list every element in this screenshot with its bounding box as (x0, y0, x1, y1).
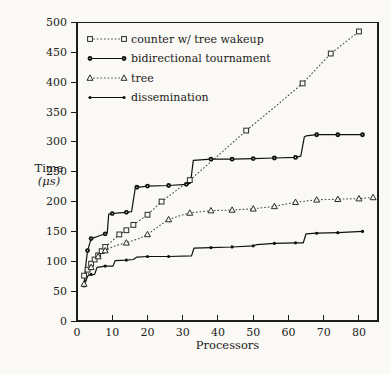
series-line-bidirectional-tournament (84, 135, 363, 286)
marker-open-triangle (187, 210, 193, 215)
marker-small-dot (167, 255, 170, 258)
legend-item-label: tree (131, 72, 154, 85)
legend-item-label: bidirectional tournament (131, 52, 271, 65)
marker-small-dot (336, 231, 339, 234)
series-markers-tree (81, 194, 376, 286)
marker-open-triangle (229, 207, 235, 212)
series-markers-bidirectional-tournament (82, 132, 365, 287)
marker-filled-circle-center (231, 159, 232, 160)
marker-open-square (124, 228, 129, 233)
marker-open-triangle (250, 206, 256, 211)
marker-small-dot (294, 241, 297, 244)
marker-filled-circle-center (274, 157, 275, 158)
plot-frame (77, 23, 378, 322)
marker-open-triangle (166, 216, 172, 221)
marker-filled-circle-center (147, 185, 148, 186)
legend-item-label: counter w/ tree wakeup (131, 33, 264, 46)
marker-open-triangle (208, 207, 214, 212)
x-tick-label: 70 (317, 326, 331, 339)
marker-filled-circle-center (126, 212, 127, 213)
legend-item-tree: tree (87, 72, 154, 85)
marker-filled-circle-center (210, 159, 211, 160)
marker-open-square (300, 81, 305, 86)
marker-open-triangle (121, 75, 127, 80)
marker-filled-circle-center (362, 134, 363, 135)
marker-open-square (131, 222, 136, 227)
marker-filled-circle-center (90, 238, 91, 239)
marker-filled-circle-center (316, 134, 317, 135)
marker-filled-circle-center (105, 233, 106, 234)
marker-small-dot (122, 96, 125, 99)
marker-open-square (88, 37, 93, 42)
marker-small-dot (315, 232, 318, 235)
series-markers-counter-w-tree-wakeup (82, 29, 362, 278)
y-tick-label: 400 (46, 76, 67, 89)
legend-item-counter-w-tree-wakeup: counter w/ tree wakeup (88, 33, 264, 46)
marker-open-square (117, 232, 122, 237)
series-markers-dissemination (89, 230, 364, 276)
legend-item-bidirectional-tournament: bidirectional tournament (88, 52, 272, 65)
marker-small-dot (104, 264, 107, 267)
marker-open-square (159, 199, 164, 204)
x-tick-label: 0 (74, 326, 81, 339)
marker-open-square (328, 51, 333, 56)
marker-open-triangle (87, 75, 93, 80)
y-tick-label: 500 (46, 16, 67, 29)
x-tick-label: 60 (281, 326, 295, 339)
marker-small-dot (230, 245, 233, 248)
marker-filled-circle-center (123, 58, 124, 59)
marker-small-dot (89, 273, 92, 276)
marker-open-square (145, 212, 150, 217)
y-axis-title-units: (μs) (38, 174, 60, 188)
y-tick-label: 350 (46, 106, 67, 119)
series-line-counter-w-tree-wakeup (84, 32, 359, 276)
legend-item-dissemination: dissemination (88, 91, 208, 104)
marker-filled-circle-center (89, 58, 90, 59)
marker-open-square (357, 29, 362, 34)
marker-open-triangle (370, 194, 376, 199)
y-tick-label: 0 (60, 315, 67, 328)
y-tick-label: 100 (46, 255, 67, 268)
marker-small-dot (125, 259, 128, 262)
y-tick-label: 50 (53, 285, 67, 298)
y-tick-label: 150 (46, 225, 67, 238)
marker-filled-circle-center (136, 187, 137, 188)
marker-small-dot (146, 255, 149, 258)
marker-open-square (122, 37, 127, 42)
marker-filled-circle-center (253, 158, 254, 159)
barrier-performance-figure: 0102030405060708005010015020025030035040… (0, 0, 391, 374)
x-tick-label: 80 (352, 326, 366, 339)
y-axis-title: Time (34, 161, 63, 175)
marker-filled-circle-center (87, 250, 88, 251)
chart-canvas: 0102030405060708005010015020025030035040… (0, 0, 391, 374)
legend-item-label: dissemination (131, 91, 209, 104)
x-tick-label: 10 (105, 326, 119, 339)
marker-filled-circle-center (337, 134, 338, 135)
marker-open-triangle (144, 231, 150, 236)
marker-open-square (82, 273, 87, 278)
marker-filled-circle-center (168, 185, 169, 186)
marker-small-dot (273, 242, 276, 245)
marker-open-square (244, 128, 249, 133)
marker-small-dot (209, 246, 212, 249)
marker-small-dot (361, 230, 364, 233)
legend: counter w/ tree wakeupbidirectional tour… (87, 33, 271, 105)
x-tick-label: 20 (140, 326, 154, 339)
marker-open-square (187, 178, 192, 183)
x-tick-label: 30 (176, 326, 190, 339)
marker-small-dot (88, 96, 91, 99)
marker-small-dot (252, 244, 255, 247)
marker-filled-circle-center (112, 213, 113, 214)
y-tick-label: 300 (46, 135, 67, 148)
marker-filled-circle-center (295, 157, 296, 158)
x-axis-title: Processors (196, 338, 260, 352)
marker-filled-circle-center (186, 184, 187, 185)
y-tick-label: 450 (46, 46, 67, 59)
y-tick-label: 200 (46, 195, 67, 208)
